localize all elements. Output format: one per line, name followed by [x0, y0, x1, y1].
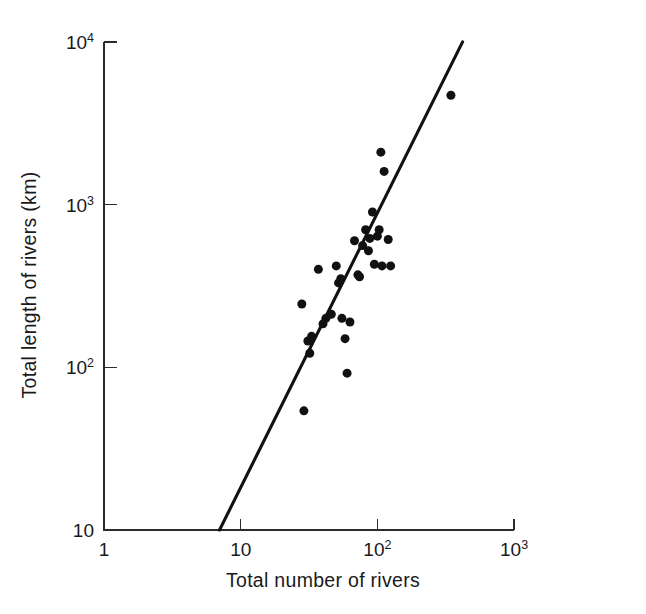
data-point [368, 208, 377, 217]
data-point [364, 246, 373, 255]
data-point [299, 406, 308, 415]
data-points-group [297, 91, 455, 416]
y-axis-ticks: 10102103104 [66, 31, 117, 541]
figure-container: 110102103 10102103104 Total number of ri… [0, 0, 646, 614]
scatter-plot: 110102103 10102103104 Total number of ri… [0, 0, 646, 614]
data-point [336, 274, 345, 283]
tick-label: 104 [66, 31, 94, 53]
data-point [384, 235, 393, 244]
data-point [365, 234, 374, 243]
tick-label: 1 [99, 539, 110, 560]
y-axis-title-group: Total length of rivers (km) [18, 172, 40, 399]
data-point [355, 272, 364, 281]
tick-label: 102 [66, 356, 94, 378]
data-point [337, 314, 346, 323]
data-point [314, 265, 323, 274]
data-point [446, 91, 455, 100]
data-point [327, 310, 336, 319]
data-point [332, 261, 341, 270]
tick-label: 10 [230, 539, 251, 560]
tick-label: 102 [363, 538, 391, 560]
data-point [375, 225, 384, 234]
data-point [361, 225, 370, 234]
data-point [376, 148, 385, 157]
x-axis-title: Total number of rivers [226, 569, 420, 591]
data-point [297, 299, 306, 308]
data-point [386, 261, 395, 270]
data-point [377, 261, 386, 270]
axes-group [104, 42, 514, 530]
data-point [307, 332, 316, 341]
x-axis-title-group: Total number of rivers [226, 569, 420, 591]
data-point [343, 369, 352, 378]
data-point [370, 260, 379, 269]
tick-label: 103 [66, 194, 94, 216]
data-point [350, 236, 359, 245]
tick-label: 103 [500, 538, 528, 560]
y-axis-title: Total length of rivers (km) [18, 172, 40, 399]
data-point [345, 317, 354, 326]
axis-lines [104, 42, 514, 530]
data-point [305, 349, 314, 358]
data-point [341, 334, 350, 343]
x-axis-ticks: 110102103 [99, 519, 528, 560]
tick-label: 10 [73, 520, 94, 541]
data-point [380, 167, 389, 176]
